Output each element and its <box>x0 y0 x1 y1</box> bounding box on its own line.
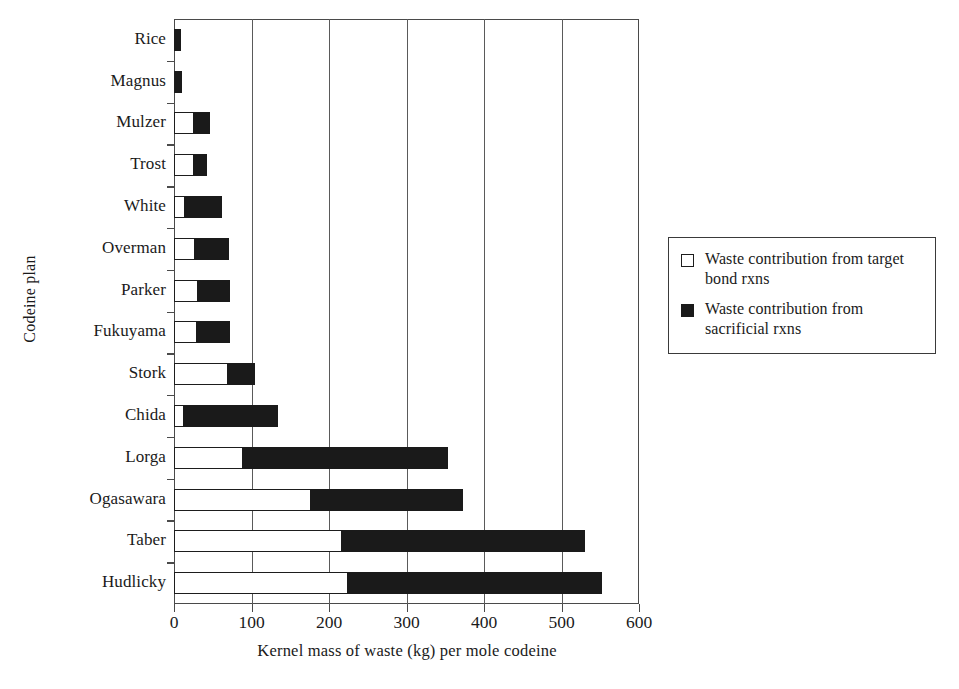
x-tick-0 <box>174 604 175 612</box>
gridline-100 <box>252 19 253 604</box>
bar-segment-sacrificial <box>347 572 602 594</box>
stacked-bar-chart: Codeine plan RiceMagnusMulzerTrostWhiteO… <box>0 0 959 689</box>
bar-segment-sacrificial <box>193 112 209 134</box>
legend-entry-1: Waste contribution from sacrificial rxns <box>681 299 925 340</box>
category-label-magnus: Magnus <box>6 71 166 91</box>
bar-trost <box>174 154 207 176</box>
bar-segment-target-bond <box>174 447 244 469</box>
category-label-stork: Stork <box>6 363 166 383</box>
category-label-taber: Taber <box>6 530 166 550</box>
bar-fukuyama <box>174 321 230 343</box>
category-label-ogasawara: Ogasawara <box>6 489 166 509</box>
category-label-wrap: White <box>0 196 166 218</box>
bar-ogasawara <box>174 489 463 511</box>
y-tick-10 <box>167 437 175 438</box>
bar-segment-target-bond <box>174 238 196 260</box>
bar-overman <box>174 238 229 260</box>
bar-segment-sacrificial <box>310 489 464 511</box>
bar-lorga <box>174 447 448 469</box>
bar-segment-sacrificial <box>175 71 182 93</box>
bar-segment-target-bond <box>174 489 311 511</box>
x-tick-600 <box>639 604 640 612</box>
bar-segment-sacrificial <box>227 363 255 385</box>
gridline-400 <box>484 19 485 604</box>
x-tick-300 <box>407 604 408 612</box>
y-tick-5 <box>167 228 175 229</box>
x-tick-label-100: 100 <box>222 612 282 633</box>
chart-legend: Waste contribution from target bond rxns… <box>668 237 936 354</box>
category-label-wrap: Stork <box>0 363 166 385</box>
y-tick-1 <box>167 61 175 62</box>
bar-segment-sacrificial <box>341 530 584 552</box>
category-label-white: White <box>6 196 166 216</box>
filled-square-swatch <box>681 304 694 317</box>
bar-magnus <box>174 71 182 93</box>
x-tick-500 <box>562 604 563 612</box>
x-tick-label-500: 500 <box>532 612 592 633</box>
category-label-rice: Rice <box>6 29 166 49</box>
legend-entry-0: Waste contribution from target bond rxns <box>681 249 925 290</box>
x-tick-label-300: 300 <box>377 612 437 633</box>
legend-label-1: Waste contribution from sacrificial rxns <box>705 299 925 340</box>
category-label-overman: Overman <box>6 238 166 258</box>
y-tick-2 <box>167 103 175 104</box>
x-tick-label-400: 400 <box>454 612 514 633</box>
bar-taber <box>174 530 585 552</box>
bar-segment-sacrificial <box>174 29 181 51</box>
gridline-300 <box>407 19 408 604</box>
category-label-wrap: Rice <box>0 29 166 51</box>
bar-segment-target-bond <box>174 321 198 343</box>
bar-segment-sacrificial <box>196 321 229 343</box>
category-label-wrap: Lorga <box>0 447 166 469</box>
category-label-wrap: Taber <box>0 530 166 552</box>
bar-chida <box>174 405 278 427</box>
x-tick-label-0: 0 <box>144 612 204 633</box>
bar-segment-target-bond <box>174 572 348 594</box>
bar-rice <box>174 29 181 51</box>
category-label-wrap: Parker <box>0 280 166 302</box>
category-label-chida: Chida <box>6 405 166 425</box>
y-tick-13 <box>167 562 175 563</box>
legend-label-0: Waste contribution from target bond rxns <box>705 249 925 290</box>
bar-white <box>174 196 222 218</box>
category-label-wrap: Chida <box>0 405 166 427</box>
category-label-wrap: Trost <box>0 154 166 176</box>
category-label-parker: Parker <box>6 280 166 300</box>
bar-segment-target-bond <box>174 530 343 552</box>
category-label-mulzer: Mulzer <box>6 112 166 132</box>
category-label-wrap: Magnus <box>0 71 166 93</box>
y-tick-8 <box>167 353 175 354</box>
x-tick-label-600: 600 <box>609 612 669 633</box>
x-tick-label-200: 200 <box>299 612 359 633</box>
category-label-wrap: Overman <box>0 238 166 260</box>
bar-segment-sacrificial <box>197 280 230 302</box>
bar-segment-sacrificial <box>194 238 229 260</box>
bar-segment-sacrificial <box>183 405 278 427</box>
bar-segment-sacrificial <box>193 154 207 176</box>
category-label-lorga: Lorga <box>6 447 166 467</box>
category-label-wrap: Hudlicky <box>0 572 166 594</box>
category-label-wrap: Mulzer <box>0 112 166 134</box>
x-tick-400 <box>484 604 485 612</box>
bar-segment-target-bond <box>174 363 228 385</box>
y-tick-6 <box>167 270 175 271</box>
bar-parker <box>174 280 230 302</box>
bar-segment-target-bond <box>174 280 199 302</box>
bar-stork <box>174 363 255 385</box>
bar-segment-sacrificial <box>184 196 222 218</box>
bar-segment-target-bond <box>174 154 195 176</box>
y-tick-9 <box>167 395 175 396</box>
category-label-hudlicky: Hudlicky <box>6 572 166 592</box>
open-square-swatch <box>681 254 694 267</box>
gridline-200 <box>329 19 330 604</box>
x-tick-100 <box>252 604 253 612</box>
category-label-trost: Trost <box>6 154 166 174</box>
bar-mulzer <box>174 112 210 134</box>
bar-hudlicky <box>174 572 602 594</box>
x-tick-200 <box>329 604 330 612</box>
y-tick-3 <box>167 144 175 145</box>
x-axis-title: Kernel mass of waste (kg) per mole codei… <box>174 641 640 661</box>
y-tick-7 <box>167 312 175 313</box>
gridline-500 <box>562 19 563 604</box>
category-label-wrap: Ogasawara <box>0 489 166 511</box>
